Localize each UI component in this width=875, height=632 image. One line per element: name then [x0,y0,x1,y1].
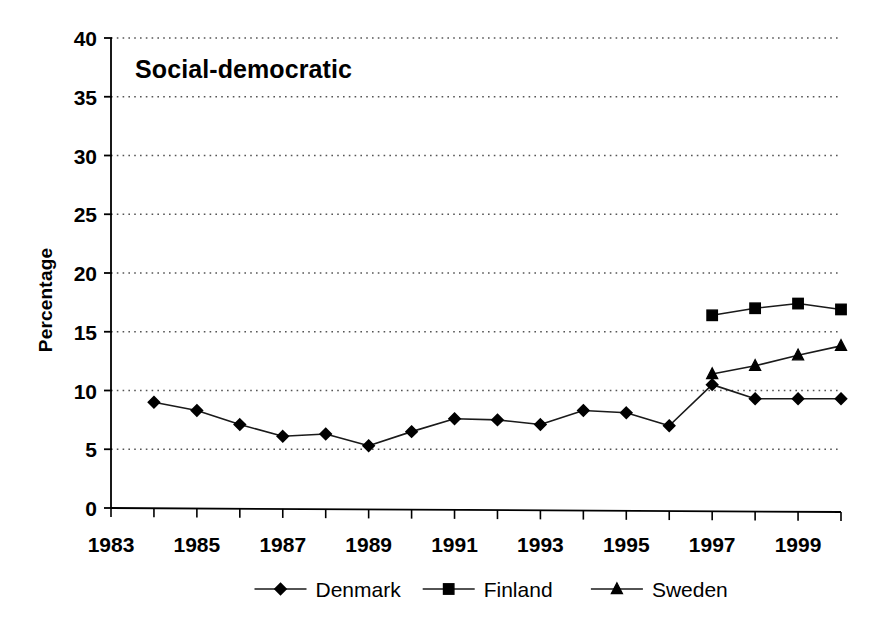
series-sweden [707,340,847,379]
series-line-finland [712,304,841,316]
y-tick-label-10: 10 [74,380,97,403]
datapoint-finland-2000 [836,304,846,314]
datapoint-denmark-1984 [148,397,159,408]
legend-marker-sweden [611,583,622,594]
datapoint-denmark-1993 [535,419,546,430]
datapoint-denmark-1987 [277,431,288,442]
x-tick-label-1987: 1987 [259,533,306,556]
x-axis-ticks: 198319851987198919911993199519971999 [88,508,841,556]
y-tick-label-35: 35 [74,86,98,109]
legend-marker-finland [444,584,454,594]
y-tick-label-15: 15 [74,321,98,344]
legend-item-finland[interactable]: Finland [423,578,553,601]
datapoint-finland-1999 [793,298,803,308]
chart-title: Social-democratic [135,55,352,83]
x-tick-label-1993: 1993 [517,533,564,556]
series-finland [707,298,846,320]
chart-figure: 0510152025303540198319851987198919911993… [0,0,875,632]
datapoint-denmark-1985 [191,405,202,416]
datapoint-denmark-1999 [792,393,803,404]
datapoint-denmark-1990 [406,426,417,437]
series-denmark [148,379,846,451]
datapoint-denmark-1998 [750,393,761,404]
datapoint-denmark-2000 [835,393,846,404]
y-axis-title: Percentage [35,248,56,352]
datapoint-denmark-1994 [578,405,589,416]
x-tick-label-1995: 1995 [603,533,650,556]
datapoint-finland-1998 [750,303,760,313]
x-tick-label-1985: 1985 [174,533,221,556]
y-tick-label-30: 30 [74,145,97,168]
datapoint-denmark-1988 [320,428,331,439]
gridlines [111,38,841,449]
y-tick-label-20: 20 [74,262,97,285]
legend-marker-denmark [275,583,286,594]
x-tick-label-1991: 1991 [431,533,478,556]
datapoint-sweden-2000 [835,340,846,351]
legend-item-denmark[interactable]: Denmark [255,578,402,601]
legend-label-denmark: Denmark [316,578,402,601]
social-democratic-line-chart: 0510152025303540198319851987198919911993… [0,0,875,632]
x-axis-line [111,508,841,512]
axes [111,38,841,512]
series-line-sweden [712,346,841,374]
legend-item-sweden[interactable]: Sweden [591,578,728,601]
datapoint-denmark-1995 [621,407,632,418]
legend-label-sweden: Sweden [652,578,728,601]
datapoint-denmark-1986 [234,419,245,430]
y-tick-label-5: 5 [85,438,97,461]
x-tick-label-1999: 1999 [775,533,822,556]
x-tick-label-1997: 1997 [689,533,736,556]
y-axis-ticks: 0510152025303540 [74,27,112,520]
y-tick-label-0: 0 [85,497,97,520]
datapoint-finland-1997 [707,310,717,320]
datapoint-denmark-1992 [492,414,503,425]
datapoint-denmark-1991 [449,413,460,424]
legend-label-finland: Finland [484,578,553,601]
y-tick-label-25: 25 [74,203,98,226]
x-tick-label-1983: 1983 [88,533,135,556]
y-tick-label-40: 40 [74,27,97,50]
x-tick-label-1989: 1989 [345,533,392,556]
